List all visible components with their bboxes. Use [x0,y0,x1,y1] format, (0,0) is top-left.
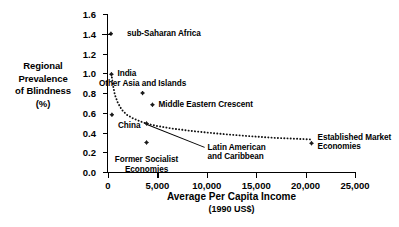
blindness-vs-income-chart: Regional Prevalence of Blindness (%) 0.0… [0,0,399,227]
y-axis-title: Regional Prevalence of Blindness (%) [2,60,84,110]
x-axis-title-main: Average Per Capita Income [108,190,355,203]
y-axis-tick: 1.0 [103,73,108,74]
data-point-label: Latin American and Caribbean [208,143,266,162]
y-axis-tick-label: 0.4 [83,127,96,138]
y-axis-title-line-2: Prevalence [2,73,84,86]
data-point-marker[interactable] [150,102,155,107]
data-point-label: China [118,121,141,131]
leader-line [102,34,111,35]
x-axis-tick [355,173,356,178]
x-axis-tick [108,173,109,178]
data-point-label: Established Market Economies [318,133,392,152]
y-axis-tick: 0.6 [103,113,108,114]
data-point-marker[interactable] [144,140,149,145]
y-axis-tick: 1.2 [103,54,108,55]
y-axis-tick: 1.6 [103,14,108,15]
data-point-marker[interactable] [109,112,114,117]
y-axis-tick-label: 0.6 [83,107,96,118]
x-axis-tick [207,173,208,178]
x-axis-tick [256,173,257,178]
x-axis-tick [306,173,307,178]
x-axis-title: Average Per Capita Income (1990 US$) [108,190,355,216]
y-axis-tick-label: 0.0 [83,167,96,178]
y-axis-title-line-3: of Blindness [2,85,84,98]
y-axis-tick: 0.4 [103,133,108,134]
y-axis-tick-label: 1.6 [83,9,96,20]
y-axis-tick: 0.2 [103,152,108,153]
x-axis-title-units: (1990 US$) [108,203,355,216]
data-point-label: sub-Saharan Africa [127,29,201,39]
y-axis-tick: 0.8 [103,93,108,94]
y-axis-tick-label: 0.8 [83,88,96,99]
y-axis-tick-label: 1.4 [83,28,96,39]
y-axis-tick-label: 1.2 [83,48,96,59]
data-point-label: Former Socialist Economies [115,155,178,174]
data-point-marker[interactable] [309,141,314,146]
data-point-label: Other Asia and Islands [99,79,186,89]
leader-line [146,124,204,148]
data-point-label: Middle Eastern Crescent [158,100,252,110]
data-point-label: India [117,69,136,79]
y-axis-tick-label: 0.2 [83,147,96,158]
y-axis-title-line-4: (%) [2,98,84,111]
data-point-marker[interactable] [109,72,114,77]
y-axis-title-line-1: Regional [2,60,84,73]
data-point-marker[interactable] [140,91,145,96]
plot-area: 0.00.20.40.60.81.01.21.41.6 05,00010,000… [108,14,355,172]
y-axis-tick-label: 1.0 [83,68,96,79]
